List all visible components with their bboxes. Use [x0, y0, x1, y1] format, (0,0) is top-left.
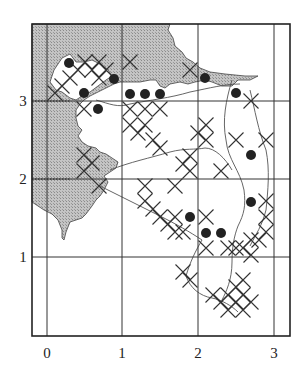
dot-marker: [246, 150, 256, 160]
cross-marker: [252, 233, 267, 248]
dot-marker: [64, 58, 74, 68]
cross-marker: [176, 265, 191, 280]
dot-marker: [200, 73, 210, 83]
dot-marker: [246, 197, 256, 207]
cross-marker: [153, 141, 168, 156]
cross-marker: [183, 273, 198, 288]
cross-marker: [146, 133, 161, 148]
dot-marker: [93, 104, 103, 114]
dot-marker: [140, 89, 150, 99]
distribution-map: 0 1 2 3 3 2 1: [0, 0, 302, 378]
cross-marker: [138, 102, 153, 117]
cross-marker: [138, 179, 153, 194]
cross-marker: [146, 202, 161, 217]
cross-marker: [168, 210, 183, 225]
cross-marker: [206, 288, 221, 303]
dot-marker: [216, 228, 226, 238]
y-tick-2: 2: [19, 171, 27, 187]
dot-marker: [109, 74, 119, 84]
cross-marker: [131, 126, 146, 141]
cross-marker: [244, 248, 259, 263]
y-tick-3: 3: [19, 93, 27, 109]
cross-marker: [168, 225, 183, 240]
x-axis-labels: 0 1 2 3: [43, 345, 278, 361]
cross-marker: [199, 241, 214, 256]
cross-marker: [259, 133, 274, 148]
cross-marker: [259, 225, 274, 240]
cross-marker: [153, 102, 168, 117]
cross-marker: [176, 225, 191, 240]
cross-marker: [183, 149, 198, 164]
dot-marker: [79, 88, 89, 98]
cross-marker: [77, 102, 92, 117]
cross-marker: [244, 233, 259, 248]
cross-marker: [221, 303, 236, 318]
x-tick-0: 0: [43, 345, 51, 361]
dot-marker: [185, 212, 195, 222]
dot-marker: [125, 89, 135, 99]
cross-marker: [176, 157, 191, 172]
x-tick-3: 3: [270, 345, 278, 361]
cross-marker: [221, 241, 236, 256]
cross-marker: [229, 133, 244, 148]
y-axis-labels: 3 2 1: [19, 93, 27, 265]
dot-marker: [201, 228, 211, 238]
cross-marker: [168, 179, 183, 194]
cross-marker: [214, 164, 229, 179]
cross-marker: [153, 210, 168, 225]
cross-marker: [199, 210, 214, 225]
x-tick-1: 1: [118, 345, 126, 361]
dot-marker: [231, 88, 241, 98]
cross-marker: [199, 133, 214, 148]
x-tick-2: 2: [194, 345, 202, 361]
cross-marker: [138, 118, 153, 133]
cross-marker: [236, 273, 251, 288]
cross-marker: [244, 295, 259, 310]
cross-marker: [229, 241, 244, 256]
dot-marker: [155, 89, 165, 99]
y-tick-1: 1: [19, 249, 27, 265]
cross-marker: [236, 288, 251, 303]
